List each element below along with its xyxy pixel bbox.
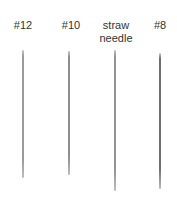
needle-image (114, 50, 115, 191)
needle-label: #10 (49, 19, 93, 32)
needle-image (159, 53, 161, 189)
needle-label: #8 (138, 19, 177, 32)
needle-image (68, 51, 69, 175)
needle-image (22, 50, 23, 178)
needle-label: straw needle (94, 19, 138, 45)
needle-label: #12 (1, 19, 45, 32)
